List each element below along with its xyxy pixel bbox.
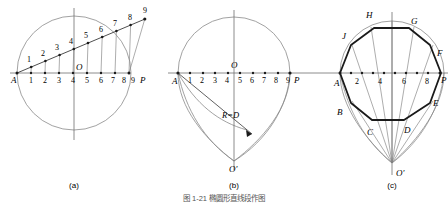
panel-a-oblique-number-5: 5 — [84, 31, 88, 40]
panel-c: 2 4 6 8 A B C D E F G H J P O' (c) — [300, 10, 448, 190]
panel-a-caption: (a) — [69, 181, 79, 190]
panel-b-baseline-number-8: 8 — [274, 76, 278, 85]
panel-a-baseline-number-3: 3 — [57, 76, 61, 85]
panel-b-label-P: P — [293, 75, 300, 85]
panel-a-baseline-number-2: 2 — [43, 76, 47, 85]
panel-a-baseline-number-1: 1 — [29, 76, 33, 85]
panel-c-label-C: C — [367, 127, 374, 137]
panel-b-baseline-number-4: 4 — [225, 76, 229, 85]
panel-b-inner-arc-3 — [234, 73, 290, 161]
panel-b-label-O: O — [231, 60, 238, 70]
panel-c-caption: (c) — [387, 181, 397, 190]
panel-c-label-G: G — [411, 16, 418, 26]
panel-a-oblique-number-6: 6 — [99, 25, 103, 34]
panel-a-baseline-number-4: 4 — [71, 76, 75, 85]
panel-c-label-F: F — [436, 48, 443, 58]
panel-b: 1 2 3 4 5 6 7 8 9 A P O O' R=D (b) — [168, 10, 300, 190]
panel-c-radial-lines — [352, 21, 433, 163]
panel-a-label-A: A — [10, 75, 17, 85]
panel-a-label-O: O — [76, 62, 83, 72]
panel-a-label-P: P — [139, 75, 146, 85]
panel-a-oblique-number-2: 2 — [41, 49, 45, 58]
panel-a-oblique-number-3: 3 — [55, 43, 59, 52]
panel-b-baseline-number-7: 7 — [262, 76, 266, 85]
panel-b-label-A: A — [171, 76, 178, 86]
panel-c-baseline-number-2: 2 — [355, 77, 359, 86]
panel-a-oblique-number-7: 7 — [113, 19, 117, 28]
panel-a-oblique-number-8: 8 — [128, 13, 132, 22]
panel-b-baseline-number-3: 3 — [213, 76, 217, 85]
panel-a-baseline-number-6: 6 — [99, 76, 103, 85]
panel-c-baseline-number-6: 6 — [402, 77, 406, 86]
panel-c-baseline-number-8: 8 — [425, 77, 429, 86]
panel-b-baseline-number-2: 2 — [200, 76, 204, 85]
panel-c-label-D: D — [403, 125, 411, 135]
geometric-construction-figure: 1 2 3 4 5 6 7 8 9 1 2 3 4 5 6 7 8 9 A P … — [0, 0, 448, 203]
panel-c-label-P: P — [440, 75, 447, 85]
panel-c-label-J: J — [342, 31, 347, 41]
figure-container: 1 2 3 4 5 6 7 8 9 1 2 3 4 5 6 7 8 9 A P … — [0, 0, 448, 203]
panel-a-baseline-number-7: 7 — [111, 76, 115, 85]
panel-b-baseline-number-9: 9 — [286, 76, 290, 85]
panel-c-label-E: E — [432, 98, 439, 108]
panel-a-oblique-number-4: 4 — [69, 37, 73, 46]
panel-b-caption: (b) — [229, 181, 239, 190]
panel-c-label-A: A — [333, 78, 340, 88]
panel-a-baseline-number-8: 8 — [122, 76, 126, 85]
panel-a-baseline-number-5: 5 — [85, 76, 89, 85]
panel-c-label-B: B — [337, 107, 343, 117]
panel-b-label-radius: R=D — [221, 110, 240, 120]
panel-a: 1 2 3 4 5 6 7 8 9 1 2 3 4 5 6 7 8 9 A P … — [10, 6, 147, 190]
panel-b-label-O-prime: O' — [229, 164, 238, 174]
panel-c-inscribed-polygon — [340, 28, 441, 120]
panel-b-baseline-number-1: 1 — [188, 76, 192, 85]
panel-a-oblique-number-1: 1 — [27, 55, 31, 64]
figure-bottom-caption: 图 1-21 椭圆形直线段作图 — [183, 193, 265, 203]
panel-b-baseline-number-6: 6 — [250, 76, 254, 85]
panel-a-baseline-number-9: 9 — [131, 76, 135, 85]
panel-a-oblique-number-9: 9 — [143, 6, 147, 15]
panel-c-baseline-number-4: 4 — [378, 77, 382, 86]
panel-c-label-O-prime: O' — [396, 168, 405, 178]
panel-a-projection-lines — [31, 19, 145, 73]
panel-b-baseline-number-5: 5 — [238, 76, 242, 85]
panel-c-label-H: H — [365, 10, 373, 20]
